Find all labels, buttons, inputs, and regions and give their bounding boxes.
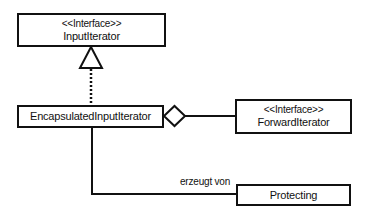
class-protecting[interactable]: Protecting (236, 184, 351, 206)
hollow-diamond-icon (164, 106, 185, 126)
association-label: erzeugt von (180, 176, 230, 188)
aggregation-edge (164, 106, 235, 126)
stereotype-label: <<Interface>> (264, 104, 324, 116)
stereotype-label: <<Interface>> (62, 18, 122, 30)
class-forward-iterator[interactable]: <<Interface>> ForwardIterator (235, 99, 352, 134)
realization-edge (80, 47, 102, 105)
class-encapsulated-input-iterator[interactable]: EncapsulatedInputIterator (17, 105, 164, 128)
class-name: ForwardIterator (257, 116, 329, 129)
hollow-triangle-arrowhead-icon (80, 47, 102, 68)
class-name: EncapsulatedInputIterator (30, 110, 151, 123)
class-name: InputIterator (63, 30, 120, 43)
class-name: Protecting (270, 189, 318, 202)
class-input-iterator[interactable]: <<Interface>> InputIterator (17, 13, 166, 47)
uml-class-diagram: <<Interface>> InputIterator Encapsulated… (0, 0, 369, 214)
